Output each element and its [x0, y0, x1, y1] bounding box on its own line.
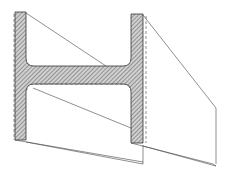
ibeam-svg [0, 0, 225, 184]
ibeam-section [15, 12, 143, 143]
ibeam-drawing [0, 0, 225, 184]
perspective-lines [15, 13, 216, 166]
